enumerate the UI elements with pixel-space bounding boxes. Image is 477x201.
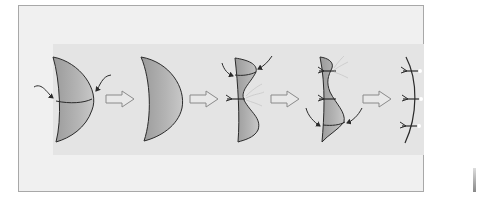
page-edge-mark	[473, 168, 476, 192]
step-4-flap	[306, 56, 362, 142]
step-arrow-3	[271, 91, 299, 107]
step-2-flap	[141, 57, 183, 141]
procedure-diagram	[0, 0, 477, 201]
step-arrow-2	[190, 91, 218, 107]
step-1-flap	[34, 57, 111, 142]
step-3-flap	[222, 56, 272, 142]
step-arrow-4	[363, 91, 391, 107]
step-arrow-1	[106, 91, 134, 107]
step-5-sutured-line	[400, 57, 423, 143]
